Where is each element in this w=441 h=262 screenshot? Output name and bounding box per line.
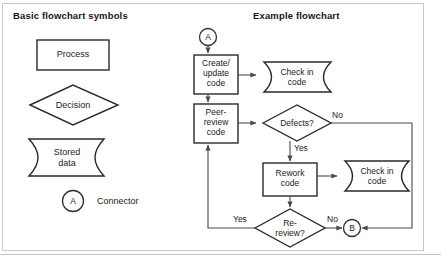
defects-decision-label: Defects? bbox=[268, 118, 326, 128]
create-update-code-label: Create/ update code bbox=[194, 58, 238, 88]
legend-stored-data-shape bbox=[29, 139, 104, 176]
legend-decision-shape bbox=[30, 85, 118, 125]
edge-label-rereview-no: No bbox=[327, 214, 338, 224]
re-review-decision-label: Re- review? bbox=[262, 218, 318, 238]
legend-connector-label: A bbox=[63, 196, 83, 206]
check-in-code-top-label: Check in code bbox=[268, 67, 326, 87]
check-in-code-bottom-label: Check in code bbox=[349, 166, 405, 186]
rework-code-label: Rework code bbox=[263, 168, 317, 188]
figure-canvas: Basic flowchart symbols Example flowchar… bbox=[0, 0, 441, 262]
edge-label-rereview-yes: Yes bbox=[233, 214, 247, 224]
edge-rereview-yes-to-peerreview bbox=[208, 145, 255, 228]
entry-connector-label: A bbox=[198, 32, 218, 42]
edge-label-defects-yes: Yes bbox=[294, 143, 308, 153]
legend-process-shape bbox=[37, 40, 109, 70]
peer-review-code-label: Peer- review code bbox=[194, 107, 238, 137]
exit-connector-label: B bbox=[342, 223, 362, 233]
edge-label-defects-no: No bbox=[332, 110, 343, 120]
legend-connector-caption: Connector bbox=[97, 196, 139, 206]
